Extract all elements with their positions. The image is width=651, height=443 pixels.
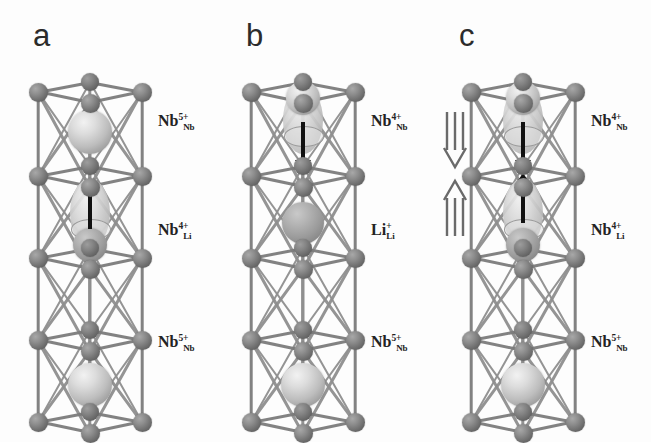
cation-sphere — [68, 110, 112, 154]
framework-atom — [133, 249, 152, 268]
framework-atom — [242, 167, 261, 186]
framework-atom — [29, 167, 48, 186]
label-c-bottom-charge: 5+ — [611, 333, 621, 343]
framework-atom — [462, 331, 481, 350]
bond — [140, 340, 143, 422]
framework-atom — [242, 83, 261, 102]
label-c-middle-charge: 4+ — [611, 221, 621, 231]
label-a-bottom-site: Nb — [183, 343, 194, 353]
framework-atom — [294, 424, 313, 443]
framework-atom — [346, 167, 365, 186]
framework-atom — [346, 249, 365, 268]
label-c-top-site: Nb — [616, 122, 627, 132]
cation-sphere — [68, 363, 112, 407]
bond — [249, 176, 252, 258]
label-c-top: Nb4+Nb — [591, 113, 627, 132]
bond — [573, 176, 576, 258]
framework-atom — [514, 424, 533, 443]
framework-atom — [294, 157, 312, 175]
framework-atom — [566, 249, 585, 268]
framework-atom — [133, 167, 152, 186]
hollow-arrow-down-icon — [442, 110, 468, 170]
bond — [469, 340, 472, 422]
label-a-bottom-charge: 5+ — [178, 333, 188, 343]
framework-atom — [29, 249, 48, 268]
framework-atom — [81, 239, 99, 257]
label-c-top-charge: 4+ — [611, 112, 621, 122]
framework-atom — [133, 83, 152, 102]
bond — [573, 340, 576, 422]
bond — [573, 258, 576, 340]
panel-b-letter: b — [246, 18, 263, 54]
framework-atom — [514, 178, 533, 197]
framework-atom — [81, 424, 100, 443]
framework-atom — [462, 83, 481, 102]
label-a-middle: Nb4+Li — [158, 222, 191, 241]
framework-atom — [81, 73, 99, 91]
framework-atom — [294, 73, 312, 91]
label-b-top-site: Nb — [396, 122, 407, 132]
framework-atom — [81, 342, 100, 361]
label-c-bottom: Nb5+Nb — [591, 334, 627, 353]
structure-column-b — [241, 78, 371, 418]
framework-atom — [346, 413, 365, 432]
framework-atom — [242, 413, 261, 432]
panel-c: c Nb4+Nb Nb4+Li Nb5+Nb — [426, 0, 651, 442]
framework-atom — [566, 83, 585, 102]
label-a-top-site: Nb — [183, 122, 194, 132]
framework-atom — [29, 413, 48, 432]
framework-atom — [566, 413, 585, 432]
panel-a-letter: a — [33, 18, 50, 54]
framework-atom — [81, 178, 100, 197]
cation-sphere — [281, 363, 325, 407]
label-b-top-symbol: Nb — [371, 112, 391, 129]
cation-sphere — [282, 202, 324, 244]
framework-atom — [294, 239, 312, 257]
framework-atom — [514, 260, 533, 279]
bond — [140, 92, 143, 176]
bond — [140, 258, 143, 340]
label-a-top-charge: 5+ — [178, 112, 188, 122]
label-a-top-symbol: Nb — [158, 112, 178, 129]
framework-atom — [294, 178, 313, 197]
bond — [573, 92, 576, 176]
label-c-bottom-symbol: Nb — [591, 333, 611, 350]
label-b-bottom-site: Nb — [396, 343, 407, 353]
bond — [36, 258, 39, 340]
framework-atom — [294, 94, 313, 113]
framework-atom — [29, 331, 48, 350]
framework-atom — [514, 342, 533, 361]
hollow-arrow-up-icon — [442, 178, 468, 238]
bond — [140, 176, 143, 258]
framework-atom — [462, 413, 481, 432]
framework-atom — [566, 167, 585, 186]
label-b-bottom: Nb5+Nb — [371, 334, 407, 353]
bond — [353, 92, 356, 176]
bond — [36, 340, 39, 422]
panel-c-letter: c — [459, 18, 475, 54]
bond — [249, 92, 252, 176]
framework-atom — [566, 331, 585, 350]
framework-atom — [514, 94, 533, 113]
bond — [353, 258, 356, 340]
panel-b: b Nb4+Nb Li+Li Nb5+Nb — [213, 0, 428, 442]
framework-atom — [242, 249, 261, 268]
structure-column-a — [28, 78, 158, 418]
bond — [469, 258, 472, 340]
cation-sphere — [501, 363, 545, 407]
bond — [36, 92, 39, 176]
framework-atom — [81, 157, 99, 175]
panel-a: a Nb5+Nb Nb4+Li Nb5+Nb — [0, 0, 215, 442]
label-b-middle-symbol: Li — [371, 221, 386, 238]
label-a-top: Nb5+Nb — [158, 113, 194, 132]
framework-atom — [462, 249, 481, 268]
bond — [469, 92, 472, 176]
framework-atom — [294, 321, 312, 339]
framework-atom — [29, 83, 48, 102]
label-a-bottom-symbol: Nb — [158, 333, 178, 350]
label-b-top-charge: 4+ — [391, 112, 401, 122]
framework-atom — [346, 83, 365, 102]
label-c-middle-symbol: Nb — [591, 221, 611, 238]
bond — [469, 176, 472, 258]
